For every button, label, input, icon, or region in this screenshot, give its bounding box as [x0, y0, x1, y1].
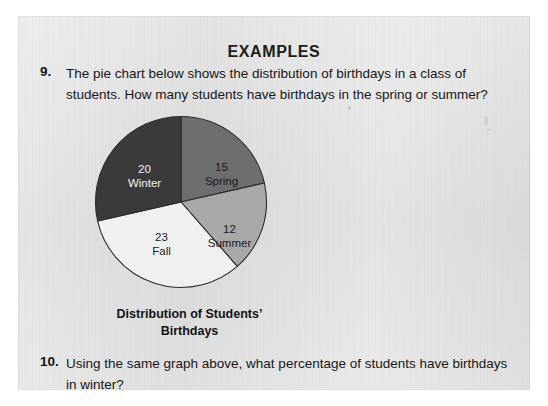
question-text: Using the same graph above, what percent… [66, 354, 510, 395]
pie-chart-svg [93, 114, 269, 290]
page-title: EXAMPLES [18, 43, 530, 61]
question-item-9: 9. The pie chart below shows the distrib… [40, 64, 510, 105]
pie-slice-group [95, 117, 266, 288]
pie-chart: 15 Spring 12 Summer 23 Fall 20 Winter [93, 114, 269, 290]
question-number: 10. [40, 354, 66, 369]
question-item-10: 10. Using the same graph above, what per… [40, 354, 510, 395]
scan-speck [486, 128, 491, 131]
chart-caption: Distribution of Students’ Birthdays [73, 306, 288, 339]
scan-speck [348, 106, 351, 110]
pie-slice-winter [95, 117, 181, 222]
scanned-page-panel: EXAMPLES 9. The pie chart below shows th… [18, 16, 530, 390]
scan-speck [484, 116, 488, 125]
question-number: 9. [40, 64, 66, 79]
chart-caption-line-1: Distribution of Students’ [91, 306, 288, 323]
chart-caption-line-2: Birthdays [91, 323, 288, 340]
pie-chart-figure: 15 Spring 12 Summer 23 Fall 20 Winter Di… [73, 114, 288, 339]
question-text: The pie chart below shows the distributi… [66, 64, 510, 105]
